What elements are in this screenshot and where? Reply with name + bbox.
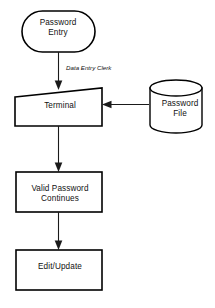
node-shape-valid-password[interactable] [16,172,102,212]
node-shape-edit-update[interactable] [16,250,102,290]
edge-arrowhead-password-entry-to-terminal [55,81,63,91]
edge-arrowhead-valid-password-to-edit-update [55,241,63,251]
edge-label-data-entry-clerk: Data Entry Clerk [66,64,111,71]
flowchart-graphics [0,0,215,308]
flowchart-canvas: Password Entry Terminal Password File Va… [0,0,215,308]
node-shape-terminal[interactable] [15,88,102,126]
edge-arrowhead-terminal-to-valid-password [55,163,63,173]
node-shape-password-file-top [150,80,202,96]
node-shape-password-entry[interactable] [22,11,95,52]
edge-arrowhead-password-file-to-terminal [102,101,112,109]
